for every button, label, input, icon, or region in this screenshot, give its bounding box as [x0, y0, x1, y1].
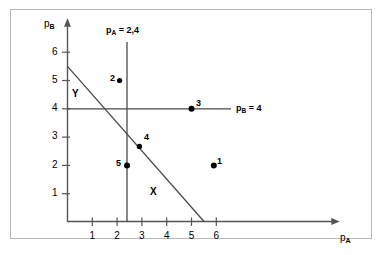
pb-constraint-label-rest: = 4: [246, 103, 261, 113]
data-point-3: [189, 106, 195, 112]
x-axis-label: pA: [340, 233, 351, 243]
y-tick-label-3: 3: [52, 131, 58, 141]
pa-constraint-label-base: p: [106, 25, 112, 35]
data-point-label-2: 2: [110, 74, 115, 83]
y-tick-label-4: 4: [52, 103, 58, 113]
y-axis-ticks: [62, 52, 70, 194]
y-tick-label-6: 6: [52, 47, 58, 57]
data-point-label-3: 3: [196, 99, 201, 108]
data-point-2: [117, 78, 122, 83]
y-axis-label-sub: B: [50, 23, 55, 30]
region-label-x: X: [150, 187, 157, 197]
y-tick-label-1: 1: [52, 188, 58, 198]
pa-constraint-label-sub: A: [112, 29, 117, 36]
data-point-label-1: 1: [217, 157, 222, 166]
x-tick-label-6: 6: [214, 231, 220, 241]
x-axis-label-base: p: [340, 232, 346, 243]
data-point-4: [137, 144, 142, 149]
pb-constraint-label-sub: B: [242, 107, 247, 114]
figure-container: 1 2 3 4 5 6 1 2 3 4 5 6 pB pA pA = 2,4 p…: [0, 0, 384, 255]
data-point-label-4: 4: [144, 133, 149, 142]
y-tick-label-2: 2: [52, 160, 58, 170]
budget-line: [68, 66, 205, 221]
x-axis-label-sub: A: [346, 237, 351, 244]
pa-constraint-label: pA = 2,4: [106, 26, 139, 35]
pa-constraint-label-rest: = 2,4: [116, 25, 139, 35]
data-point-1: [211, 162, 217, 168]
pb-constraint-label: pB = 4: [236, 104, 261, 113]
data-point-label-5: 5: [116, 159, 121, 168]
x-tick-label-3: 3: [139, 231, 145, 241]
y-tick-label-5: 5: [52, 75, 58, 85]
region-label-y: Y: [72, 89, 79, 99]
plot-canvas: [0, 0, 384, 255]
x-tick-label-4: 4: [164, 231, 170, 241]
y-axis-label: pB: [44, 19, 55, 29]
y-axis-label-base: p: [44, 18, 50, 29]
data-point-5: [124, 162, 130, 168]
pb-constraint-label-base: p: [236, 103, 242, 113]
x-tick-label-1: 1: [90, 231, 96, 241]
x-tick-label-5: 5: [189, 231, 195, 241]
x-tick-label-2: 2: [114, 231, 120, 241]
